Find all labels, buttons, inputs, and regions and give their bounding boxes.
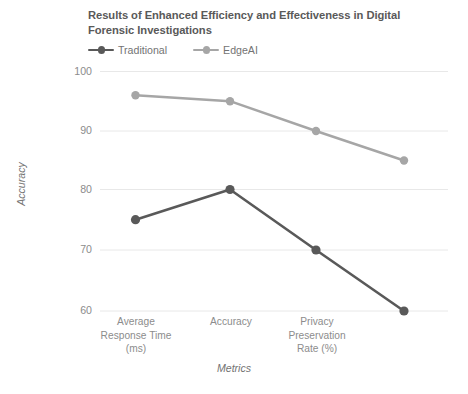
legend-label-edgeai: EdgeAI <box>223 44 258 56</box>
x-tick-label-0: Average Response Time (ms) <box>84 315 188 356</box>
x-tick-label-2-line-3: Rate (%) <box>265 342 369 356</box>
data-point-edgeai-3 <box>400 156 408 164</box>
y-tick-label-80: 80 <box>58 184 92 195</box>
data-point-traditional-2 <box>311 245 320 254</box>
legend-marker-icon-edgeai <box>193 45 219 56</box>
plot-area <box>100 64 448 314</box>
legend-label-traditional: Traditional <box>118 44 167 56</box>
plot-canvas <box>100 64 448 314</box>
y-tick-label-90: 90 <box>58 125 92 136</box>
line-chart: Results of Enhanced Efficiency and Effec… <box>0 0 468 394</box>
chart-title-line-1: Results of Enhanced Efficiency and Effec… <box>88 9 400 21</box>
legend-item-traditional[interactable]: Traditional <box>88 44 167 56</box>
x-tick-label-0-line-1: Average <box>84 315 188 329</box>
series-edgeai <box>131 91 408 165</box>
x-tick-label-2: Privacy Preservation Rate (%) <box>265 315 369 356</box>
data-point-edgeai-0 <box>131 91 139 99</box>
x-axis-title: Metrics <box>0 362 468 374</box>
legend-marker-icon-traditional <box>88 45 114 56</box>
x-tick-label-2-line-2: Preservation <box>265 329 369 343</box>
y-axis-title: Accuracy <box>15 139 27 229</box>
legend-item-edgeai[interactable]: EdgeAI <box>193 44 258 56</box>
grid-lines <box>100 72 448 312</box>
chart-legend: Traditional EdgeAI <box>88 44 258 56</box>
data-point-traditional-0 <box>131 215 140 224</box>
chart-title: Results of Enhanced Efficiency and Effec… <box>88 8 443 37</box>
x-tick-label-2-line-1: Privacy <box>265 315 369 329</box>
chart-title-line-2: Forensic Investigations <box>88 24 212 36</box>
x-tick-label-0-line-2: Response Time <box>84 329 188 343</box>
data-point-edgeai-2 <box>312 127 320 135</box>
data-point-edgeai-1 <box>226 97 234 105</box>
y-tick-label-70: 70 <box>58 244 92 255</box>
y-tick-label-100: 100 <box>58 66 92 77</box>
x-tick-label-0-line-3: (ms) <box>84 342 188 356</box>
data-point-traditional-3 <box>399 306 408 315</box>
data-point-traditional-1 <box>225 185 234 194</box>
